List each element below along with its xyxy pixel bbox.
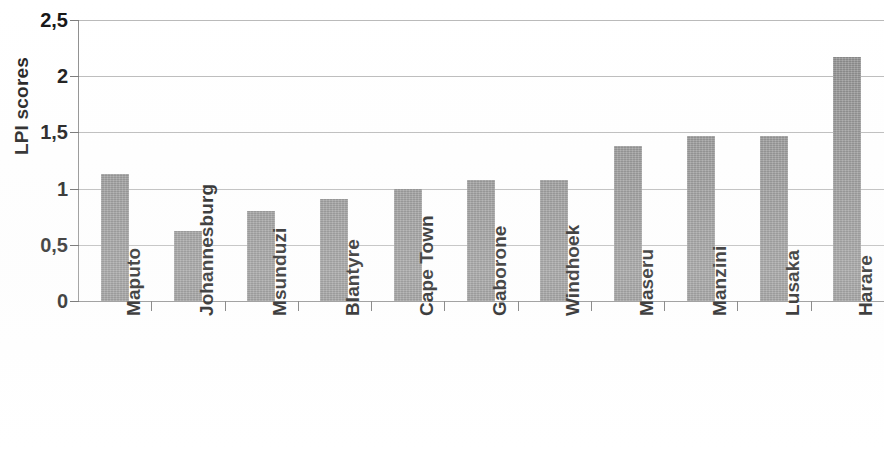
x-axis-tick-labels: MaputoJohannesburgMsunduziBlantyreCape T… [0,0,884,450]
y-axis-tick-mark [70,20,79,21]
x-axis-tick-label: Blantyre [342,156,364,316]
x-axis-tick-label: Harare [855,156,877,316]
x-axis-tick-label: Maputo [123,156,145,316]
x-axis-tick-label: Lusaka [782,156,804,316]
y-axis-tick-mark [70,189,79,190]
x-axis-tick-mark [151,301,152,311]
x-axis-tick-mark [444,301,445,311]
x-axis-tick-label: Msunduzi [269,156,291,316]
x-axis-tick-mark [371,301,372,311]
x-axis-tick-mark [737,301,738,311]
x-axis-tick-label: Cape Town [416,156,438,316]
x-axis-tick-label: Manzini [709,156,731,316]
x-axis-tick-mark [298,301,299,311]
x-axis-tick-mark [591,301,592,311]
bar-chart: LPI scores 2,521,510,50 MaputoJohannesbu… [0,0,884,450]
x-axis-tick-mark [518,301,519,311]
y-axis-tick-mark [70,301,79,302]
y-axis-tick-mark [70,245,79,246]
x-axis-tick-mark [664,301,665,311]
y-axis-tick-mark [70,132,79,133]
x-axis-tick-label: Maseru [636,156,658,316]
x-axis-tick-label: Gaborone [489,156,511,316]
x-axis-tick-mark [225,301,226,311]
x-axis-tick-label: Windhoek [562,156,584,316]
y-axis-tick-mark [70,76,79,77]
x-axis-tick-mark [811,301,812,311]
x-axis-tick-label: Johannesburg [196,156,218,316]
